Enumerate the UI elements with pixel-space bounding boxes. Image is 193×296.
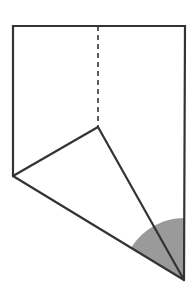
left-crease-line: [13, 127, 98, 176]
folded-rectangle-diagram: [0, 0, 193, 296]
shaded-angle-sector: [131, 218, 184, 280]
right-crease-line: [98, 127, 184, 280]
